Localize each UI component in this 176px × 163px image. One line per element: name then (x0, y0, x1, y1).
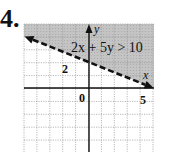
y-tick-label-2: 2 (62, 62, 68, 76)
inequality-graph: y 2x + 5y > 10 2 0 x 5 (0, 0, 176, 163)
y-axis-label: y (93, 22, 100, 36)
x-tick-label-5: 5 (140, 93, 146, 107)
x-axis-label: x (142, 68, 149, 82)
inequality-label: 2x + 5y > 10 (71, 40, 143, 55)
origin-label: 0 (79, 91, 85, 105)
